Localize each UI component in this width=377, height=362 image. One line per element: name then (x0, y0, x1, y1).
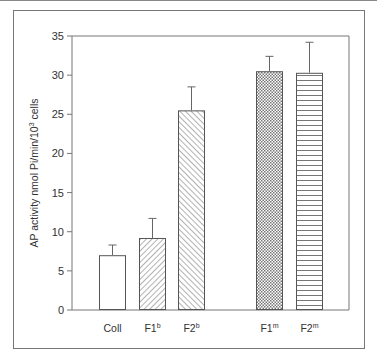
y-tick-label: 25 (52, 108, 64, 120)
x-tick-label: F2b (183, 322, 199, 334)
bars (99, 42, 323, 310)
y-tick-label: 35 (52, 30, 64, 42)
y-tick-label: 0 (58, 304, 64, 316)
bar-coll (100, 256, 126, 310)
y-tick-label: 15 (52, 187, 64, 199)
bar-chart: 05101520253035AP activity nmol Pi/min/10… (0, 0, 377, 362)
bar-f1m (257, 72, 283, 310)
x-tick-label: F1m (260, 322, 278, 334)
y-tick-label: 30 (52, 69, 64, 81)
y-axis-label: AP activity nmol Pi/min/103 cells (28, 98, 40, 247)
bar-f1b (140, 238, 166, 309)
x-tick-label: F2m (300, 322, 318, 334)
bar-f2m (297, 73, 323, 309)
x-tick-label: F1b (144, 322, 160, 334)
x-tick-label: Coll (103, 322, 121, 334)
y-tick-label: 20 (52, 147, 64, 159)
y-tick-label: 10 (52, 226, 64, 238)
y-tick-label: 5 (58, 265, 64, 277)
bar-f2b (179, 111, 205, 310)
